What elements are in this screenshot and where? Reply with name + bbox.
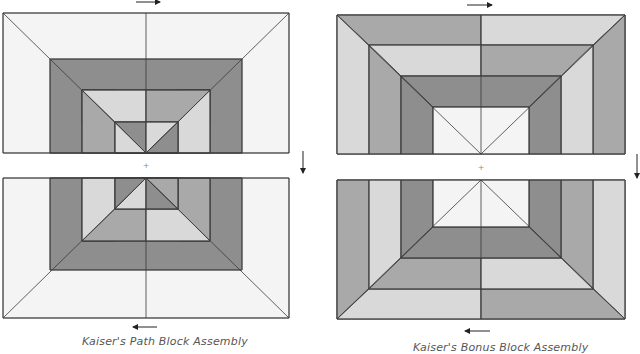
caption-kaisers-path: Kaiser's Path Block Assembly bbox=[82, 335, 248, 348]
bonus-top-half bbox=[337, 15, 625, 154]
center-marker-icon: + bbox=[143, 161, 150, 170]
bonus-bottom-half bbox=[337, 180, 625, 319]
center-marker-icon: + bbox=[478, 163, 485, 172]
path-bottom-half bbox=[3, 178, 289, 318]
caption-kaisers-bonus: Kaiser's Bonus Block Assembly bbox=[413, 341, 588, 354]
path-top-half bbox=[3, 13, 289, 153]
